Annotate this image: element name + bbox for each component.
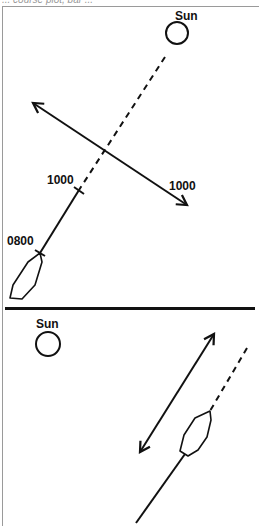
diagram-canvas: Sun 1000 0800 1000 Sun — [0, 0, 259, 526]
time-label-1000: 1000 — [47, 173, 74, 187]
tick-1000 — [74, 187, 84, 194]
top-panel: Sun 1000 0800 1000 — [7, 9, 198, 299]
sun-icon-bottom — [36, 332, 60, 356]
boat-hull-icon-bottom — [180, 411, 211, 456]
projected-course-dashed — [79, 57, 165, 190]
projected-course-dashed-bottom — [210, 348, 247, 411]
course-line-solid — [40, 190, 79, 253]
sun-label-top: Sun — [175, 9, 198, 23]
boat-hull-icon-top — [10, 253, 42, 299]
panel-divider — [5, 307, 255, 310]
time-label-0800: 0800 — [7, 234, 34, 248]
bearing-label-1000: 1000 — [169, 179, 196, 193]
sun-icon-top — [166, 22, 188, 44]
bottom-panel: Sun — [36, 317, 247, 523]
bearing-double-arrow — [33, 103, 187, 205]
course-line-solid-bottom — [136, 454, 185, 523]
sun-label-bottom: Sun — [36, 317, 59, 331]
